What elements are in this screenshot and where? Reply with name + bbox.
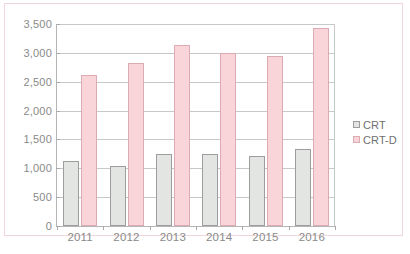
gridline bbox=[57, 53, 335, 54]
bar-crt-2011 bbox=[63, 161, 79, 226]
y-axis-tick-label: 2,000 bbox=[23, 105, 52, 117]
bar-crt-d-2013 bbox=[174, 45, 190, 226]
y-axis-tickmark bbox=[56, 197, 60, 198]
gridline bbox=[57, 24, 335, 25]
plot-area bbox=[57, 24, 335, 226]
bar-crt-d-2015 bbox=[267, 56, 283, 226]
y-axis-tick-label: 1,000 bbox=[23, 162, 52, 174]
gridline bbox=[57, 111, 335, 112]
bar-crt-d-2016 bbox=[313, 28, 329, 226]
x-axis-tick-label-2016: 2016 bbox=[299, 231, 325, 243]
y-axis-tickmark bbox=[56, 24, 60, 25]
y-axis-tick-label: 500 bbox=[33, 191, 52, 203]
y-axis-tickmark bbox=[56, 82, 60, 83]
bar-crt-2016 bbox=[295, 149, 311, 226]
bar-crt-2013 bbox=[156, 154, 172, 226]
gridline bbox=[57, 168, 335, 169]
gridline bbox=[57, 139, 335, 140]
figure-caption bbox=[6, 241, 266, 252]
x-axis-tickmark bbox=[196, 226, 197, 230]
bar-crt-2014 bbox=[202, 154, 218, 226]
legend-item-crt-d: CRT-D bbox=[353, 133, 397, 146]
y-axis-tick-label: 3,000 bbox=[23, 47, 52, 59]
x-axis-tickmark bbox=[150, 226, 151, 230]
legend-swatch-icon bbox=[353, 121, 360, 128]
legend-label: CRT bbox=[363, 119, 386, 131]
legend-item-crt: CRT bbox=[353, 118, 397, 131]
y-axis-tick-label: 0 bbox=[46, 220, 52, 232]
y-axis-tick-label: 1,500 bbox=[23, 133, 52, 145]
y-axis-tickmark bbox=[56, 53, 60, 54]
chart-frame: 05001,0001,5002,0002,5003,0003,500 20112… bbox=[4, 3, 403, 236]
y-axis-tick-label: 2,500 bbox=[23, 76, 52, 88]
chart-legend: CRTCRT-D bbox=[353, 118, 397, 148]
x-axis-tickmark bbox=[103, 226, 104, 230]
bar-crt-2015 bbox=[249, 156, 265, 226]
gridline bbox=[57, 197, 335, 198]
y-axis-tickmark bbox=[56, 168, 60, 169]
bar-crt-d-2014 bbox=[220, 53, 236, 226]
x-axis-tickmark bbox=[242, 226, 243, 230]
plot-right-edge bbox=[334, 24, 335, 226]
x-axis-tickmark bbox=[335, 226, 336, 230]
y-axis-tick-label: 3,500 bbox=[23, 18, 52, 30]
y-axis-tickmark bbox=[56, 139, 60, 140]
x-axis-tickmark bbox=[289, 226, 290, 230]
bar-crt-d-2011 bbox=[81, 75, 97, 226]
y-axis-tickmark bbox=[56, 226, 60, 227]
legend-swatch-icon bbox=[353, 136, 360, 143]
bar-crt-d-2012 bbox=[128, 63, 144, 226]
bar-crt-2012 bbox=[110, 166, 126, 226]
y-axis-labels: 05001,0001,5002,0002,5003,0003,500 bbox=[5, 24, 52, 226]
gridline bbox=[57, 82, 335, 83]
y-axis-tickmark bbox=[56, 111, 60, 112]
legend-label: CRT-D bbox=[363, 134, 397, 146]
